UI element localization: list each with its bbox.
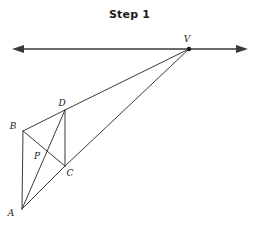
label-v: V — [184, 34, 192, 44]
segment-AC — [22, 166, 65, 209]
segment-BD — [23, 110, 65, 131]
segment-AD — [22, 110, 65, 209]
segment-BC — [23, 131, 65, 166]
label-c: C — [67, 168, 74, 178]
figure-root: Step 1 A B C D P V — [0, 0, 259, 227]
label-b: B — [9, 121, 17, 131]
label-p: P — [33, 151, 41, 161]
double-headed-horizontal-line — [12, 45, 248, 53]
label-d: D — [57, 98, 65, 108]
segment-DV — [65, 49, 189, 110]
label-a: A — [7, 208, 15, 218]
vertex-point-v — [187, 47, 191, 51]
geometry-diagram: A B C D P V — [0, 0, 259, 227]
arrowhead-left-icon — [12, 45, 24, 53]
segment-AB — [22, 131, 23, 209]
arrowhead-right-icon — [236, 45, 248, 53]
segment-CV — [65, 49, 189, 166]
